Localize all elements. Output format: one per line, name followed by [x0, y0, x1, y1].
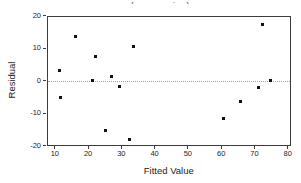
y-tick-label: 20 [22, 12, 41, 20]
data-point [110, 75, 113, 78]
chart-title-text: (response is y) [130, 2, 189, 4]
y-axis-label: Residual [6, 62, 17, 99]
data-point [132, 45, 135, 48]
chart-title-clipped: (response is y) [30, 0, 290, 4]
data-point [91, 79, 94, 82]
data-point [118, 85, 121, 88]
y-tick-label: 0 [22, 77, 41, 85]
x-tick-label: 70 [245, 150, 263, 158]
x-tick-label: 50 [179, 150, 197, 158]
y-tick-label: -20 [22, 142, 41, 150]
data-point [257, 86, 260, 89]
x-tick-label: 30 [112, 150, 130, 158]
plot-area [47, 16, 292, 146]
x-tick-label: 60 [212, 150, 230, 158]
x-tick-label: 10 [46, 150, 64, 158]
data-point [269, 79, 272, 82]
data-point [59, 96, 62, 99]
y-tick-mark [43, 80, 46, 81]
data-point [94, 55, 97, 58]
x-tick-label: 20 [79, 150, 97, 158]
data-point [74, 35, 77, 38]
y-tick-mark [43, 113, 46, 114]
y-tick-label: -10 [22, 109, 41, 117]
x-tick-label: 80 [279, 150, 297, 158]
zero-reference-line [48, 81, 291, 82]
data-point [58, 69, 61, 72]
y-tick-mark [43, 145, 46, 146]
data-point [222, 117, 225, 120]
x-tick-label: 40 [146, 150, 164, 158]
y-tick-mark [43, 15, 46, 16]
data-point [128, 138, 131, 141]
y-tick-label: 10 [22, 44, 41, 52]
x-axis-label: Fitted Value [47, 165, 292, 176]
data-point [104, 129, 107, 132]
data-point [239, 100, 242, 103]
y-tick-mark [43, 48, 46, 49]
data-point [261, 23, 264, 26]
residuals-vs-fitted-chart: (response is y) Residual Fitted Value 10… [0, 0, 301, 183]
